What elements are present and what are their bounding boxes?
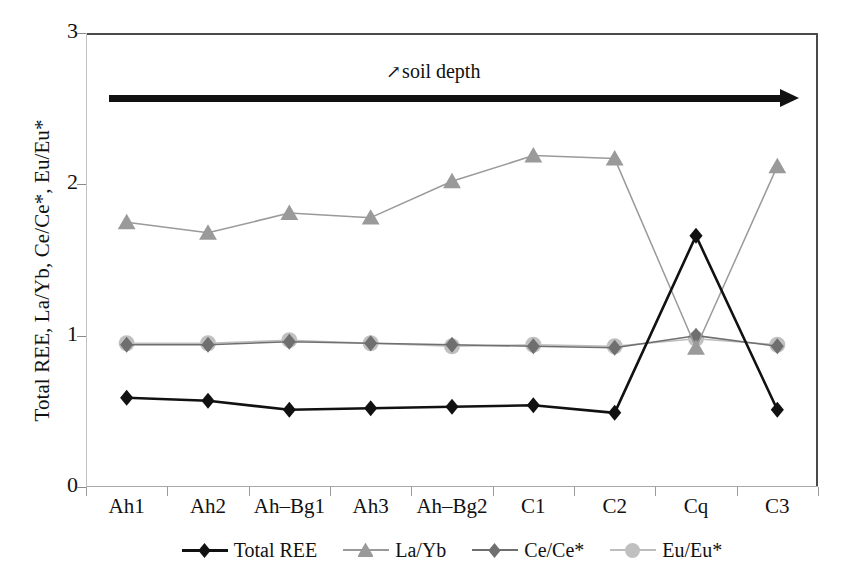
legend-label: Ce/Ce*: [524, 539, 584, 562]
soil-depth-arrow-head: [780, 89, 799, 107]
legend-item-total-ree[interactable]: Total REE: [182, 539, 318, 562]
y-axis-tick-label: 3: [54, 20, 78, 42]
series-total-ree: [120, 228, 784, 421]
up-right-arrow-icon: ↗: [386, 62, 402, 82]
chart-figure: Total REE, La/Yb, Ce/Ce*, Eu/Eu* 0123 ↗s…: [0, 0, 845, 585]
series-la-yb: [118, 147, 787, 355]
soil-depth-annotation-text: soil depth: [402, 60, 480, 82]
data-point: [689, 228, 702, 244]
y-axis-tick-labels: 0123: [52, 0, 78, 585]
y-axis-tick-mark: [77, 336, 86, 337]
data-point: [120, 390, 133, 406]
x-axis-tick-label: C3: [765, 494, 790, 519]
y-axis-title: Total REE, La/Yb, Ce/Ce*, Eu/Eu*: [30, 61, 55, 481]
data-point: [524, 147, 542, 162]
legend-marker-icon: [472, 541, 518, 559]
legend-item-la-yb[interactable]: La/Yb: [343, 539, 446, 562]
x-axis-tick-label: C1: [521, 494, 546, 519]
legend-marker-icon: [343, 541, 389, 559]
data-point: [283, 402, 296, 418]
x-axis-tick-label: Ah3: [353, 494, 389, 519]
plot-area: ↗soil depth: [86, 33, 818, 487]
legend-marker-glyph: [487, 543, 502, 558]
legend-label: La/Yb: [395, 539, 446, 562]
legend-marker-glyph: [358, 543, 373, 558]
x-axis-tick-label: C2: [602, 494, 627, 519]
x-axis-tick-labels: Ah1Ah2Ah–Bg1Ah3Ah–Bg2C1C2CqC3: [86, 494, 818, 528]
legend-label: Eu/Eu*: [662, 539, 722, 562]
y-axis-tick-mark: [77, 487, 86, 488]
data-point: [364, 400, 377, 416]
data-point: [527, 397, 540, 413]
y-axis-tick-label: 2: [54, 171, 78, 193]
legend-label: Total REE: [234, 539, 318, 562]
x-axis-tick-label: Ah–Bg2: [416, 494, 487, 519]
legend-marker-glyph: [625, 543, 640, 558]
x-axis-tick-label: Ah2: [190, 494, 226, 519]
x-axis-tick-label: Ah–Bg1: [254, 494, 325, 519]
y-axis-tick-mark: [77, 184, 86, 185]
x-axis-tick-label: Ah1: [109, 494, 145, 519]
y-axis-tick-mark: [77, 33, 86, 34]
data-point: [118, 214, 136, 229]
x-axis-tick-label: Cq: [684, 494, 709, 519]
legend-item-ce-ce[interactable]: Ce/Ce*: [472, 539, 584, 562]
data-point: [768, 158, 786, 173]
data-point: [280, 205, 298, 220]
chart-legend: Total REELa/YbCe/Ce*Eu/Eu*: [86, 533, 818, 567]
y-axis-tick-label: 1: [54, 323, 78, 345]
data-point: [443, 173, 461, 188]
data-point: [201, 393, 214, 409]
legend-marker-icon: [610, 541, 656, 559]
data-point: [771, 402, 784, 418]
x-axis-tick-mark: [818, 487, 819, 496]
soil-depth-annotation: ↗soil depth: [386, 60, 480, 83]
series-ce-ce: [120, 328, 784, 356]
soil-depth-arrow-shaft: [109, 95, 782, 102]
legend-marker-icon: [182, 541, 228, 559]
y-axis-tick-label: 0: [54, 474, 78, 496]
series-line: [127, 236, 778, 413]
data-point: [608, 405, 621, 421]
legend-item-eu-eu[interactable]: Eu/Eu*: [610, 539, 722, 562]
data-point: [445, 399, 458, 415]
legend-marker-glyph: [197, 543, 212, 558]
